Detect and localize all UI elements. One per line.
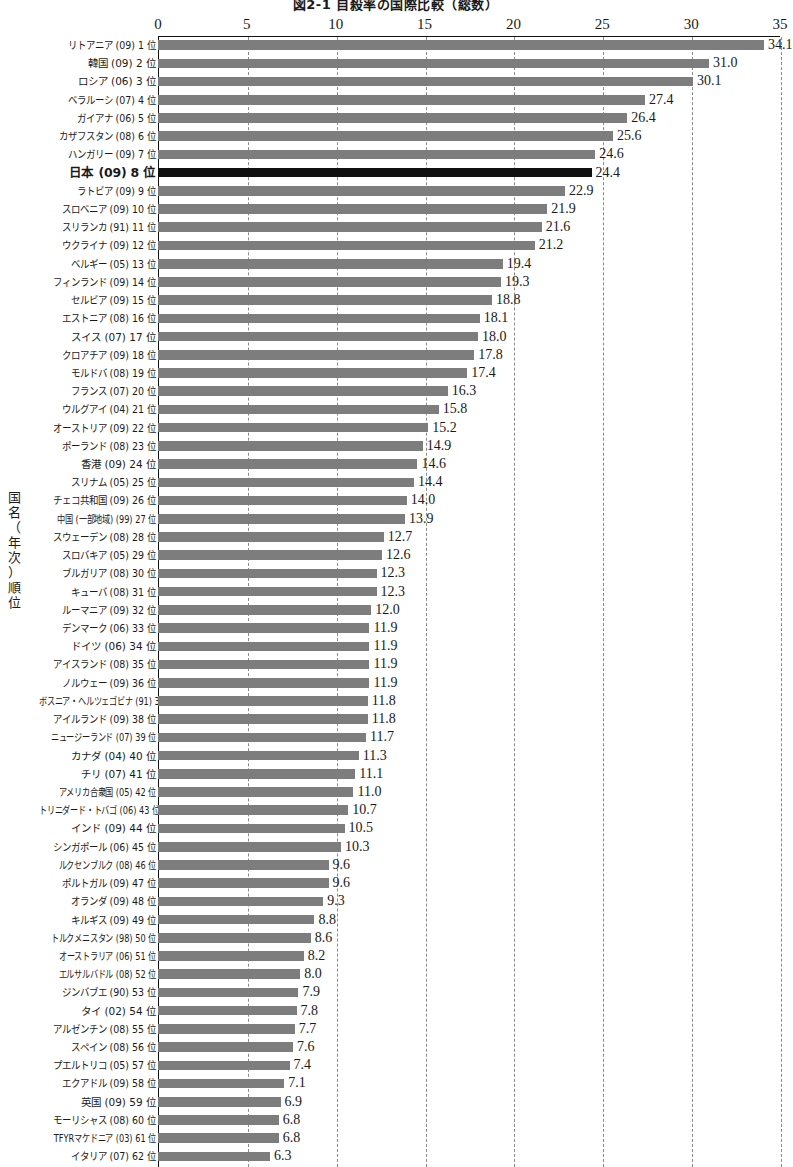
bar-row: スロバキア (05) 29 位12.6 <box>0 546 791 564</box>
bar <box>158 805 348 815</box>
bar-category-label: ハンガリー (09) 7 位 <box>21 146 156 162</box>
bar-row: ブルガリア (08) 30 位12.3 <box>0 564 791 582</box>
bar-value-label: 11.8 <box>372 693 396 709</box>
bar <box>158 405 439 415</box>
x-tick-15: 15 <box>417 16 432 33</box>
bar-value-label: 30.1 <box>697 73 722 89</box>
bar-value-label: 11.3 <box>363 748 387 764</box>
bar-value-label: 21.9 <box>551 201 576 217</box>
bar-row: チリ (07) 41 位11.1 <box>0 765 791 783</box>
bar-category-label: フィンランド (09) 14 位 <box>21 274 156 290</box>
bar <box>158 550 382 560</box>
bar-row: フィンランド (09) 14 位19.3 <box>0 273 791 291</box>
bar-row: キルギス (09) 49 位8.8 <box>0 911 791 929</box>
bar-row: デンマーク (06) 33 位11.9 <box>0 619 791 637</box>
bar <box>158 168 592 178</box>
bar-category-label: 香港 (09) 24 位 <box>6 456 156 472</box>
bar-value-label: 11.1 <box>359 766 383 782</box>
bar-category-label: スロベニア (09) 10 位 <box>21 201 156 217</box>
bar-value-label: 18.0 <box>482 329 507 345</box>
bar-row: オランダ (09) 48 位9.3 <box>0 892 791 910</box>
bar <box>158 441 423 451</box>
bar-category-label: ラトビア (09) 9 位 <box>21 183 156 199</box>
bar-value-label: 21.6 <box>546 219 571 235</box>
bar-category-label: イタリア (07) 62 位 <box>21 1148 156 1164</box>
bar-value-label: 14.4 <box>418 474 443 490</box>
bar-row: ウクライナ (09) 12 位21.2 <box>0 236 791 254</box>
bar-category-label: アメリカ合衆国 (05) 42 位 <box>39 784 156 800</box>
bar-category-label: エストニア (08) 16 位 <box>21 310 156 326</box>
bar-value-label: 7.7 <box>299 1021 317 1037</box>
bar-value-label: 27.4 <box>649 92 674 108</box>
chart-title: 図2-1 自殺率の国際比較（総数） <box>0 0 791 13</box>
x-tick-20: 20 <box>506 16 521 33</box>
bar-row: スウェーデン (08) 28 位12.7 <box>0 528 791 546</box>
bar-row: インド (09) 44 位10.5 <box>0 819 791 837</box>
bar-row: ウルグアイ (04) 21 位15.8 <box>0 400 791 418</box>
bar-category-label: キルギス (09) 49 位 <box>21 912 156 928</box>
bar-category-label: ドイツ (06) 34 位 <box>6 638 156 654</box>
bar <box>158 605 371 615</box>
bar-category-label: 日本 (09) 8 位 <box>6 165 156 181</box>
bar-category-label: スペイン (08) 56 位 <box>21 1039 156 1055</box>
bar-value-label: 8.6 <box>315 930 333 946</box>
bar-category-label: タイ (02) 54 位 <box>6 1003 156 1019</box>
bar <box>158 1079 284 1089</box>
bar <box>158 113 627 123</box>
bar-value-label: 8.0 <box>304 966 322 982</box>
bar-row: ニュージーランド (07) 39 位11.7 <box>0 728 791 746</box>
bar-row: スロベニア (09) 10 位21.9 <box>0 200 791 218</box>
bar <box>158 459 417 469</box>
bar-value-label: 22.9 <box>569 183 594 199</box>
bar-value-label: 18.8 <box>496 292 521 308</box>
bar-row: ドイツ (06) 34 位11.9 <box>0 637 791 655</box>
bar-category-label: アルゼンチン (08) 55 位 <box>21 1021 156 1037</box>
bar-row: アイスランド (08) 35 位11.9 <box>0 655 791 673</box>
bar <box>158 642 369 652</box>
bar-row: 韓国 (09) 2 位31.0 <box>0 54 791 72</box>
bar <box>158 751 359 761</box>
bar <box>158 842 341 852</box>
x-tick-30: 30 <box>684 16 699 33</box>
bar-row: スイス (07) 17 位18.0 <box>0 328 791 346</box>
bar <box>158 933 311 943</box>
bar-value-label: 9.6 <box>333 875 351 891</box>
bar-category-label: アイスランド (08) 35 位 <box>21 656 156 672</box>
bar-category-label: フランス (07) 20 位 <box>21 383 156 399</box>
bar <box>158 40 764 50</box>
bar-value-label: 8.8 <box>318 912 336 928</box>
bar-row: アイルランド (09) 38 位11.8 <box>0 710 791 728</box>
bar-row: クロアチア (09) 18 位17.8 <box>0 346 791 364</box>
bar <box>158 532 384 542</box>
bar-row: スリナム (05) 25 位14.4 <box>0 473 791 491</box>
bar-row: エクアドル (09) 58 位7.1 <box>0 1074 791 1092</box>
bar-category-label: スロバキア (05) 29 位 <box>21 547 156 563</box>
bar-value-label: 7.8 <box>301 1003 319 1019</box>
bar <box>158 824 345 834</box>
bar <box>158 514 405 524</box>
bar-category-label: オランダ (09) 48 位 <box>21 893 156 909</box>
bar-row: ルーマニア (09) 32 位12.0 <box>0 601 791 619</box>
bar-value-label: 6.8 <box>283 1112 301 1128</box>
bar-value-label: 11.9 <box>373 620 397 636</box>
bar-category-label: トリニダード・トバゴ (06) 43 位 <box>39 802 156 818</box>
bar-value-label: 17.8 <box>478 347 503 363</box>
x-tick-0: 0 <box>154 16 162 33</box>
bar <box>158 696 368 706</box>
bar-category-label: カナダ (04) 40 位 <box>6 748 156 764</box>
bar-category-label: ガイアナ (06) 5 位 <box>21 110 156 126</box>
bar <box>158 332 478 342</box>
bar-value-label: 10.7 <box>352 802 377 818</box>
bar <box>158 241 535 251</box>
bar <box>158 878 329 888</box>
bar-value-label: 11.9 <box>373 675 397 691</box>
x-tick-25: 25 <box>595 16 610 33</box>
bar-category-label: スリナム (05) 25 位 <box>21 474 156 490</box>
bar-category-label: TFYRマケドニア (03) 61 位 <box>39 1130 156 1146</box>
bar-value-label: 31.0 <box>713 55 738 71</box>
bar-category-label: リトアニア (09) 1 位 <box>21 37 156 53</box>
bar-value-label: 11.9 <box>373 656 397 672</box>
bar-row: カナダ (04) 40 位11.3 <box>0 747 791 765</box>
bar-category-label: 中国 (一部地域) (99) 27 位 <box>39 511 156 527</box>
bar-category-label: キューバ (08) 31 位 <box>21 584 156 600</box>
